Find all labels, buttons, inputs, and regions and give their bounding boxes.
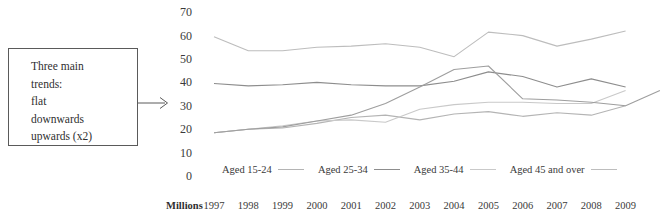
x-axis-tick-label: 2007 [540, 200, 574, 211]
legend-item-label: Aged 25-34 [318, 164, 368, 175]
legend-swatch-icon [278, 169, 304, 170]
y-axis-tick-label: 30 [166, 100, 192, 112]
legend-item[interactable]: Aged 45 and over [510, 164, 617, 175]
legend-item-label: Aged 15-24 [222, 164, 272, 175]
x-axis-tick-label: 2002 [369, 200, 403, 211]
series-line [214, 72, 626, 87]
x-axis-tick-label: 1999 [266, 200, 300, 211]
x-axis-tick-label: 2009 [609, 200, 643, 211]
x-axis-tick-label: 2003 [403, 200, 437, 211]
x-axis-tick-label: 2005 [471, 200, 505, 211]
x-axis-tick-label: 2008 [574, 200, 608, 211]
x-axis-tick-label: 1998 [231, 200, 265, 211]
x-axis-tick-label: 2000 [300, 200, 334, 211]
series-line [214, 106, 626, 133]
y-axis-tick-label: 50 [166, 53, 192, 65]
y-axis-tick-label: 0 [166, 170, 192, 182]
series-line [214, 66, 660, 133]
x-axis-tick-label: 2006 [506, 200, 540, 211]
line-chart: 706050403020100 199719981999200020012002… [0, 0, 662, 219]
chart-page: Three main trends: flat downwards upward… [0, 0, 662, 219]
units-label: Millions [166, 200, 203, 211]
legend-swatch-icon [374, 169, 400, 170]
plot-area [0, 0, 662, 219]
chart-legend: Aged 15-24Aged 25-34Aged 35-44Aged 45 an… [222, 164, 631, 175]
legend-item-label: Aged 35-44 [414, 164, 464, 175]
series-line [214, 31, 626, 57]
y-axis-tick-label: 70 [166, 6, 192, 18]
y-axis-tick-label: 40 [166, 76, 192, 88]
legend-item[interactable]: Aged 35-44 [414, 164, 496, 175]
legend-item-label: Aged 45 and over [510, 164, 585, 175]
x-axis-tick-label: 2004 [437, 200, 471, 211]
y-axis-tick-label: 10 [166, 147, 192, 159]
legend-swatch-icon [591, 169, 617, 170]
legend-swatch-icon [470, 169, 496, 170]
legend-item[interactable]: Aged 15-24 [222, 164, 304, 175]
x-axis-tick-label: 2001 [334, 200, 368, 211]
series-line [214, 91, 626, 133]
legend-item[interactable]: Aged 25-34 [318, 164, 400, 175]
y-axis-tick-label: 60 [166, 30, 192, 42]
y-axis-tick-label: 20 [166, 123, 192, 135]
